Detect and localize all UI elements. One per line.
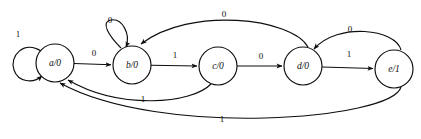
fsm-canvas: 1 0 0 1 0 1 0 bbox=[0, 0, 421, 139]
transition-e-a-path bbox=[60, 83, 401, 118]
transition-d-b-label: 0 bbox=[222, 9, 227, 19]
state-a-label: a/0 bbox=[49, 58, 61, 68]
transition-b-c-path bbox=[151, 65, 197, 66]
transition-d-b-path bbox=[141, 20, 308, 47]
transition-e-d-label: 0 bbox=[348, 24, 353, 34]
state-d[interactable]: d/0 bbox=[284, 47, 322, 85]
transition-e-d: 0 bbox=[314, 24, 401, 50]
transition-c-d-label: 0 bbox=[259, 51, 264, 61]
transition-b-b-label: 0 bbox=[108, 15, 113, 25]
transition-d-e-label: 1 bbox=[347, 49, 352, 59]
state-e-label: e/1 bbox=[388, 64, 400, 74]
transition-a-b: 0 bbox=[74, 48, 111, 65]
transition-b-c: 1 bbox=[151, 50, 197, 66]
transition-c-a-path bbox=[68, 80, 211, 101]
transition-e-a: 1 bbox=[60, 83, 401, 124]
transition-c-a-label: 1 bbox=[141, 94, 146, 104]
transition-d-e: 1 bbox=[322, 49, 373, 68]
state-e[interactable]: e/1 bbox=[375, 50, 413, 88]
transition-c-a: 1 bbox=[68, 80, 211, 104]
transition-e-a-label: 1 bbox=[220, 114, 225, 124]
transition-a-a-label: 1 bbox=[16, 29, 21, 39]
transition-d-b: 0 bbox=[141, 9, 308, 47]
transition-c-d: 0 bbox=[237, 51, 282, 66]
state-b-label: b/0 bbox=[126, 60, 138, 70]
transition-a-b-path bbox=[74, 64, 111, 65]
state-c-label: c/0 bbox=[212, 61, 224, 71]
transition-e-d-path bbox=[314, 31, 401, 50]
transition-d-e-path bbox=[322, 67, 373, 69]
transition-b-c-label: 1 bbox=[173, 50, 178, 60]
state-c[interactable]: c/0 bbox=[199, 47, 237, 85]
state-d-label: d/0 bbox=[297, 61, 309, 71]
state-a[interactable]: a/0 bbox=[36, 44, 74, 82]
transition-a-b-label: 0 bbox=[92, 48, 97, 58]
state-b[interactable]: b/0 bbox=[113, 46, 151, 84]
fsm-diagram: 1 0 0 1 0 1 0 bbox=[0, 0, 421, 139]
transition-b-b: 0 bbox=[106, 15, 127, 48]
